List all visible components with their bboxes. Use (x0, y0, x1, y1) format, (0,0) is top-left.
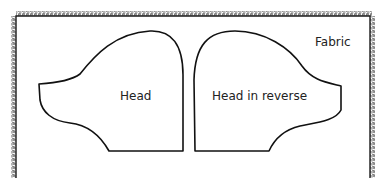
head-pattern-piece (39, 31, 183, 151)
pattern-layout-diagram (0, 0, 380, 187)
head-label: Head (120, 90, 151, 102)
head-in-reverse-label: Head in reverse (212, 90, 307, 102)
fabric-label: Fabric (315, 36, 351, 48)
